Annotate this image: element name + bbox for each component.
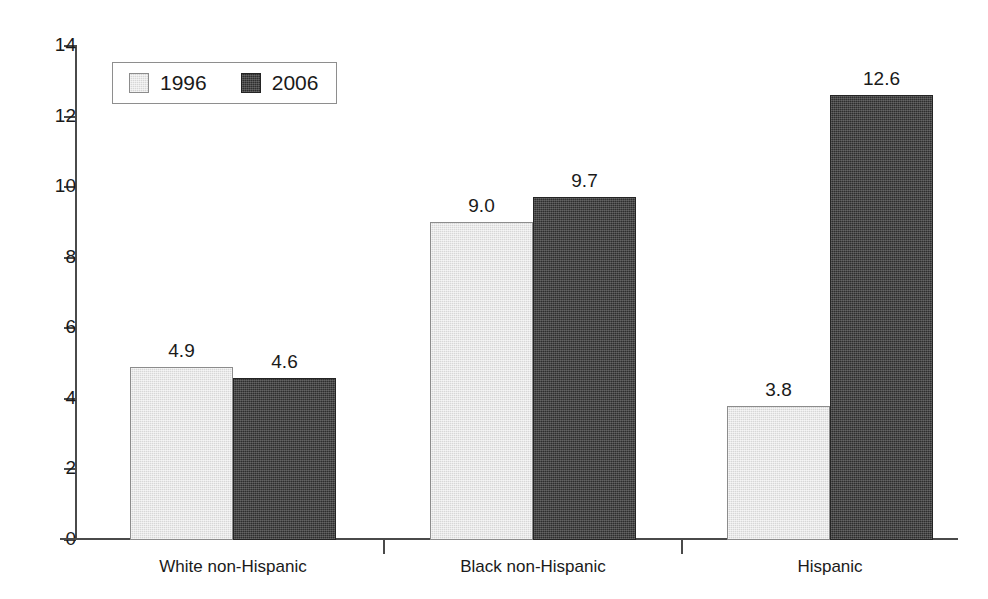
bar-value-label: 3.8 (727, 380, 830, 399)
light-gray-swatch-icon (129, 73, 149, 93)
y-tick-label: 14 (42, 35, 76, 54)
bar-value-label: 4.9 (130, 341, 233, 360)
bar-value-label: 4.6 (233, 352, 336, 371)
bar-value-label: 9.7 (533, 171, 636, 190)
bar-black-non-hispanic-1996[interactable] (430, 222, 533, 540)
y-tick-label: 6 (42, 317, 76, 336)
y-tick-label: 12 (42, 106, 76, 125)
bar-white-non-hispanic-1996[interactable] (130, 367, 233, 540)
x-label-hispanic: Hispanic (727, 558, 933, 575)
x-separator-tick-1 (383, 540, 385, 554)
dark-gray-swatch-icon (241, 73, 261, 93)
legend: 1996 2006 (112, 62, 337, 104)
legend-item-label: 2006 (272, 72, 319, 93)
y-tick-label: 4 (42, 388, 76, 407)
x-label-white-non-hispanic: White non-Hispanic (130, 558, 336, 575)
y-tick-label: 2 (42, 458, 76, 477)
y-tick-label: 8 (42, 247, 76, 266)
bar-black-non-hispanic-2006[interactable] (533, 197, 636, 540)
x-label-black-non-hispanic: Black non-Hispanic (430, 558, 636, 575)
legend-item-label: 1996 (160, 72, 207, 93)
bar-value-label: 12.6 (830, 69, 933, 88)
legend-item-1996[interactable]: 1996 (129, 72, 207, 93)
y-tick-label: 10 (42, 176, 76, 195)
bar-hispanic-2006[interactable] (830, 95, 933, 540)
chart-figure: 14 12 10 8 6 4 2 0 4.9 4.6 9.0 9.7 3.8 (0, 0, 988, 599)
bar-white-non-hispanic-2006[interactable] (233, 378, 336, 540)
bar-value-label: 9.0 (430, 196, 533, 215)
legend-item-2006[interactable]: 2006 (241, 72, 319, 93)
x-separator-tick-2 (681, 540, 683, 554)
bar-hispanic-1996[interactable] (727, 406, 830, 540)
